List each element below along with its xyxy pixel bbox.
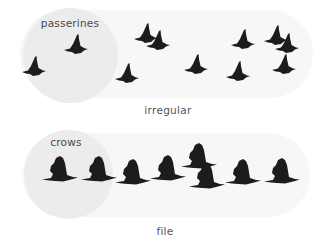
crow-icon [263,157,301,185]
crow-icon [41,155,79,183]
crow-icon [224,158,262,186]
passerine-icon [225,60,251,82]
passerine-icon [21,55,47,77]
passerine-icon [145,29,171,51]
passerine-icon [114,62,140,84]
crow-icon [188,162,226,190]
passerines-label: passerines [38,17,102,29]
passerine-icon [271,53,297,75]
file-caption: file [145,225,185,237]
passerine-icon [274,32,300,54]
crow-icon [80,155,118,183]
crows-label: crows [44,136,88,148]
crow-icon [114,158,152,186]
irregular-caption: irregular [133,104,203,116]
passerine-icon [183,53,209,75]
passerine-icon [63,33,89,55]
passerine-icon [230,28,256,50]
